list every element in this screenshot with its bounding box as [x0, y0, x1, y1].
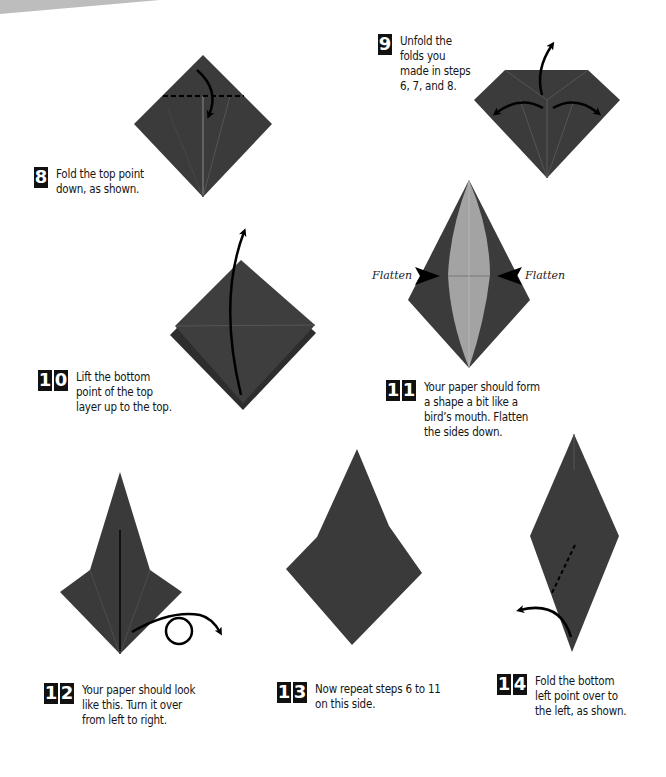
step-13-diagram [286, 449, 422, 645]
step-10-diagram [170, 232, 316, 410]
step-10-instruction: Lift the bottom point of the top layer u… [76, 370, 172, 415]
step-10-number-badge: 10 [38, 370, 68, 391]
flatten-left-label: Flatten [372, 269, 412, 282]
step-9: 9 Unfold the folds you made in steps 6, … [378, 34, 471, 94]
step-8: 8 Fold the top point down, as shown. [34, 167, 144, 197]
step-12-instruction: Your paper should look like this. Turn i… [82, 683, 195, 728]
step-8-instruction: Fold the top point down, as shown. [56, 167, 144, 197]
turn-over-loop-icon [166, 618, 192, 644]
step-11: 11 Your paper should form a shape a bit … [386, 380, 540, 440]
step-8-number-badge: 8 [34, 167, 48, 188]
step-12-number-badge: 12 [44, 683, 74, 704]
flatten-right-label: Flatten [525, 269, 565, 282]
step-14-number-badge: 14 [497, 674, 527, 695]
step-11-diagram [408, 180, 530, 368]
step-9-instruction: Unfold the folds you made in steps 6, 7,… [400, 34, 471, 94]
step-10: 10 Lift the bottom point of the top laye… [38, 370, 172, 415]
step-8-diagram [134, 55, 272, 197]
step-11-number-badge: 11 [386, 380, 416, 401]
step-9-diagram [474, 45, 620, 178]
step-13-instruction: Now repeat steps 6 to 11 on this side. [315, 682, 441, 712]
step-14-diagram [520, 434, 619, 652]
step-14: 14 Fold the bottom left point over to th… [497, 674, 626, 719]
step-12-diagram [60, 472, 220, 654]
step-13: 13 Now repeat steps 6 to 11 on this side… [277, 682, 441, 712]
step-13-number-badge: 13 [277, 682, 307, 703]
step-9-number-badge: 9 [378, 34, 392, 55]
step-11-instruction: Your paper should form a shape a bit lik… [424, 380, 540, 440]
step-12: 12 Your paper should look like this. Tur… [44, 683, 195, 728]
step-14-instruction: Fold the bottom left point over to the l… [535, 674, 626, 719]
